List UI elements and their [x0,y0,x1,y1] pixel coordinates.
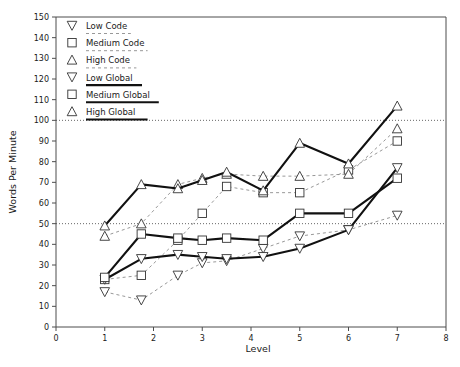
square-icon [68,90,76,98]
x-axis-title: Level [245,343,270,354]
data-point-marker [198,236,206,244]
legend-item-label: Medium Code [86,38,144,48]
triangle-up-icon [67,55,77,64]
data-point-marker [174,234,182,242]
data-point-marker [137,271,145,279]
y-tick-label: 60 [39,199,49,208]
data-point-marker [392,101,402,110]
legend-item-label: Medium Global [86,90,150,100]
data-point-marker [100,231,110,240]
data-point-marker [222,182,230,190]
series-path [105,178,398,277]
y-tick-label: 120 [34,75,49,84]
data-point-marker [392,211,402,220]
y-tick-label: 80 [39,158,49,167]
y-tick-label: 70 [39,178,49,187]
legend-item-label: High Code [86,55,130,65]
data-point-marker [393,137,401,145]
data-point-marker [137,296,147,305]
triangle-down-icon [67,21,77,30]
legend-item-label: High Global [86,107,135,117]
legend-item-medium-code[interactable]: Medium Code [68,38,148,51]
y-tick-label: 30 [39,261,49,270]
x-tick-label: 3 [200,334,205,343]
data-point-marker [258,244,268,253]
legend-item-high-code[interactable]: High Code [67,55,136,68]
y-tick-label: 110 [34,96,49,105]
data-point-marker [173,271,183,280]
y-tick-label: 0 [44,323,49,332]
square-icon [68,39,76,47]
chart-container: 012345678 010203040506070809010011012013… [0,0,460,367]
legend-item-low-global[interactable]: Low Global [67,73,142,86]
x-tick-label: 6 [346,334,351,343]
y-tick-label: 100 [34,116,49,125]
data-series-layer [100,101,402,305]
y-tick-label: 130 [34,54,49,63]
data-point-marker [222,234,230,242]
legend-item-high-global[interactable]: High Global [67,107,147,120]
y-tick-label: 10 [39,302,49,311]
series-path [105,106,398,226]
data-point-marker [392,124,402,133]
legend-item-label: Low Code [86,21,127,31]
y-tick-label: 90 [39,137,49,146]
series-path [105,129,398,236]
x-tick-label: 4 [248,334,253,343]
legend-item-label: Low Global [86,73,133,83]
y-tick-label: 150 [34,13,49,22]
reference-lines [56,120,446,223]
y-tick-label: 20 [39,282,49,291]
legend-item-medium-global[interactable]: Medium Global [68,90,159,103]
data-point-marker [137,230,145,238]
triangle-up-icon [67,107,77,116]
series-medium-code [101,137,402,284]
y-axis-ticks: 0102030405060708090100110120130140150 [34,13,56,332]
x-tick-label: 1 [102,334,107,343]
x-tick-label: 5 [297,334,302,343]
legend-item-low-code[interactable]: Low Code [67,21,131,34]
data-point-marker [100,288,110,297]
x-tick-label: 2 [151,334,156,343]
x-tick-label: 8 [443,334,448,343]
data-point-marker [295,138,305,147]
x-axis-ticks: 012345678 [53,327,448,343]
x-tick-label: 7 [395,334,400,343]
data-point-marker [296,188,304,196]
data-point-marker [296,209,304,217]
y-tick-label: 140 [34,34,49,43]
y-tick-label: 50 [39,220,49,229]
line-chart: 012345678 010203040506070809010011012013… [0,0,460,367]
chart-legend: Low CodeMedium CodeHigh CodeLow GlobalMe… [67,21,159,120]
data-point-marker [295,232,305,241]
series-high-code [100,124,402,240]
triangle-down-icon [67,73,77,82]
data-point-marker [393,174,401,182]
x-tick-label: 0 [53,334,58,343]
y-tick-label: 40 [39,240,49,249]
data-point-marker [344,209,352,217]
data-point-marker [101,273,109,281]
data-point-marker [259,236,267,244]
data-point-marker [222,167,232,176]
y-axis-title: Words Per Minute [7,130,18,213]
data-point-marker [198,209,206,217]
